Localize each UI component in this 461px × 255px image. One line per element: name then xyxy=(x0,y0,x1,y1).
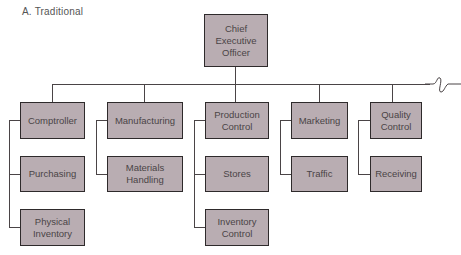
main-horizontal-line xyxy=(52,84,430,85)
spine-manufacturing xyxy=(96,120,97,174)
tick xyxy=(9,174,20,175)
node-receiving: Receiving xyxy=(370,156,422,192)
ceo-stem xyxy=(235,66,236,84)
tick xyxy=(194,227,205,228)
node-physical-inventory: PhysicalInventory xyxy=(20,209,85,246)
tick xyxy=(96,120,107,121)
node-manufacturing: Manufacturing xyxy=(107,102,183,139)
tick xyxy=(280,174,291,175)
node-comptroller: Comptroller xyxy=(20,102,85,139)
node-inventory-control: InventoryControl xyxy=(205,209,269,246)
tick xyxy=(96,174,107,175)
drop-manufacturing xyxy=(144,84,145,102)
tick xyxy=(194,174,205,175)
spine-marketing xyxy=(280,120,281,174)
tick xyxy=(9,227,20,228)
node-production-control: ProductionControl xyxy=(205,102,269,139)
tick xyxy=(9,120,20,121)
drop-production xyxy=(235,84,236,102)
drop-marketing xyxy=(319,84,320,102)
tick xyxy=(358,120,370,121)
node-traffic: Traffic xyxy=(291,156,348,192)
tick xyxy=(194,120,205,121)
drop-quality xyxy=(392,84,393,102)
node-purchasing: Purchasing xyxy=(20,156,85,192)
drop-comptroller xyxy=(52,84,53,102)
node-marketing: Marketing xyxy=(291,102,348,139)
diagram-title: A. Traditional xyxy=(22,6,83,17)
tick xyxy=(358,174,370,175)
tick xyxy=(280,120,291,121)
node-stores: Stores xyxy=(205,156,269,192)
spine-quality xyxy=(358,120,359,174)
node-materials-handling: MaterialsHandling xyxy=(107,156,183,192)
node-chief-executive-officer: ChiefExecutiveOfficer xyxy=(204,14,268,67)
node-quality-control: QualityControl xyxy=(370,102,422,139)
continuation-wave-icon xyxy=(425,74,461,96)
